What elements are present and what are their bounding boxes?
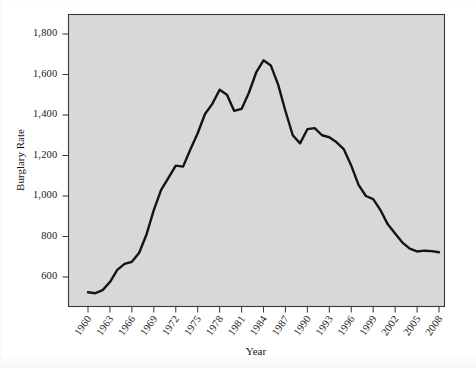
y-tick-label: 1,600 (33, 68, 58, 79)
figure-container: 1,8001,6001,4001,2001,000800600 19601963… (0, 0, 476, 368)
x-axis-title: Year (246, 345, 267, 357)
y-tick-label: 1,800 (33, 27, 58, 38)
y-tick-label: 1,200 (33, 149, 58, 160)
y-tick-label: 600 (41, 270, 57, 281)
y-tick-label: 1,400 (33, 108, 58, 119)
y-tick-label: 1,000 (33, 189, 58, 200)
y-axis-title: Burglary Rate (14, 129, 26, 191)
y-tick-label: 800 (41, 230, 57, 241)
burglary-rate-line-chart: 1,8001,6001,4001,2001,000800600 19601963… (0, 0, 476, 368)
